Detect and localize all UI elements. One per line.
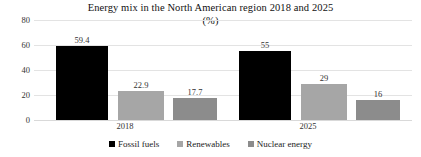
x-tick-2025: 2025 xyxy=(263,122,353,131)
chart-title-main: Energy mix in the North American region … xyxy=(0,2,421,14)
legend-item-renewables[interactable]: Renewables xyxy=(177,139,229,149)
bar-2018-renewables: 22.9 xyxy=(118,91,164,120)
legend-swatch-fossil-fuels xyxy=(109,141,115,147)
y-tick-60: 60 xyxy=(4,41,30,49)
bar-label-2025-nuclear-energy: 16 xyxy=(374,90,383,99)
legend-swatch-nuclear-energy xyxy=(248,141,254,147)
legend-label-fossil-fuels: Fossil fuels xyxy=(118,139,159,149)
bar-label-2018-renewables: 22.9 xyxy=(134,81,149,90)
bar-group-2025: 55 29 16 2025 xyxy=(239,20,389,120)
bar-label-2025-fossil-fuels: 55 xyxy=(261,41,270,50)
bar-2025-nuclear-energy: 16 xyxy=(356,100,400,120)
y-tick-80: 80 xyxy=(4,16,30,24)
y-tick-0: 0 xyxy=(4,116,30,124)
legend-swatch-renewables xyxy=(177,141,183,147)
bar-2025-renewables: 29 xyxy=(301,84,347,120)
bar-2018-nuclear-energy: 17.7 xyxy=(173,98,217,120)
y-tick-40: 40 xyxy=(4,66,30,74)
legend-item-fossil-fuels[interactable]: Fossil fuels xyxy=(109,139,159,149)
legend-item-nuclear-energy[interactable]: Nuclear energy xyxy=(248,139,312,149)
bar-2025-fossil-fuels: 55 xyxy=(239,51,291,120)
legend-label-renewables: Renewables xyxy=(186,139,229,149)
x-tick-2018: 2018 xyxy=(80,122,170,131)
y-tick-20: 20 xyxy=(4,91,30,99)
bar-label-2025-renewables: 29 xyxy=(320,74,329,83)
chart-legend: Fossil fuels Renewables Nuclear energy xyxy=(0,139,421,149)
gridline-0 xyxy=(34,120,412,121)
bar-label-2018-nuclear-energy: 17.7 xyxy=(188,88,203,97)
plot-area: 59.4 22.9 17.7 2018 55 29 16 2025 xyxy=(34,20,412,120)
bar-chart: Energy mix in the North American region … xyxy=(0,0,421,157)
legend-label-nuclear-energy: Nuclear energy xyxy=(257,139,312,149)
bar-2018-fossil-fuels: 59.4 xyxy=(56,46,108,120)
bar-group-2018: 59.4 22.9 17.7 2018 xyxy=(56,20,196,120)
bar-label-2018-fossil-fuels: 59.4 xyxy=(75,36,90,45)
